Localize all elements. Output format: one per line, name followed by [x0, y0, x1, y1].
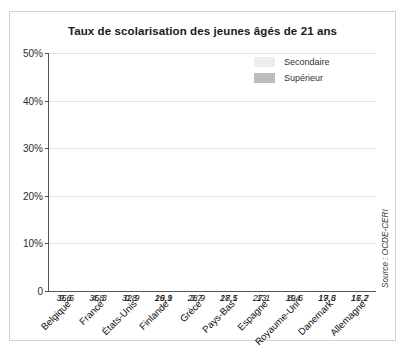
y-axis-tick-mark	[45, 196, 49, 197]
y-axis-tick-label: 10%	[23, 238, 43, 249]
legend-swatch-icon	[254, 73, 275, 83]
chart-title: Taux de scolarisation des jeunes âgés de…	[10, 25, 395, 37]
x-axis-category-label: Grèce	[178, 298, 204, 324]
legend-label: Supérieur	[284, 73, 323, 83]
gridline	[49, 243, 376, 244]
y-axis-tick-mark	[45, 291, 49, 292]
gridline	[49, 101, 376, 102]
x-axis-line	[48, 291, 376, 292]
gridline	[49, 53, 376, 54]
x-axis-category-label: États-Unis	[99, 298, 138, 337]
y-axis-tick-mark	[45, 243, 49, 244]
legend-item[interactable]: Supérieur	[254, 73, 330, 83]
y-axis-tick-mark	[45, 101, 49, 102]
y-axis-tick-mark	[45, 148, 49, 149]
y-axis-tick-label: 20%	[23, 190, 43, 201]
y-axis-tick-label: 40%	[23, 95, 43, 106]
x-axis-category-label: Finlande	[137, 298, 171, 332]
chart-figure: Taux de scolarisation des jeunes âgés de…	[9, 11, 396, 341]
x-axis-category-label: Belgique	[39, 298, 73, 332]
y-axis-tick-label: 0	[37, 286, 43, 297]
legend-swatch-icon	[254, 57, 275, 67]
y-axis-line	[48, 53, 49, 291]
chart-legend: SecondaireSupérieur	[254, 57, 330, 89]
y-axis-tick-label: 30%	[23, 143, 43, 154]
source-note: Source : OCDE-CERI	[381, 209, 390, 288]
gridline	[49, 196, 376, 197]
legend-label: Secondaire	[284, 57, 330, 67]
x-axis-category-label: Pays-Bas	[200, 298, 237, 335]
legend-item[interactable]: Secondaire	[254, 57, 330, 67]
gridline	[49, 148, 376, 149]
y-axis-tick-label: 50%	[23, 48, 43, 59]
y-axis-tick-mark	[45, 53, 49, 54]
